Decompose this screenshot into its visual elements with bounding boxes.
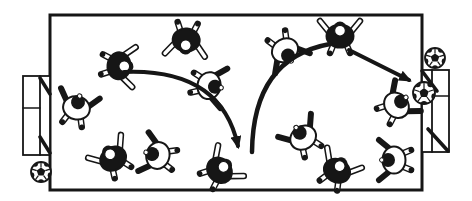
left-goal	[23, 76, 50, 155]
ball-top-right	[422, 47, 447, 71]
field-scene	[0, 0, 472, 201]
soccer-play-illustration	[0, 0, 472, 201]
